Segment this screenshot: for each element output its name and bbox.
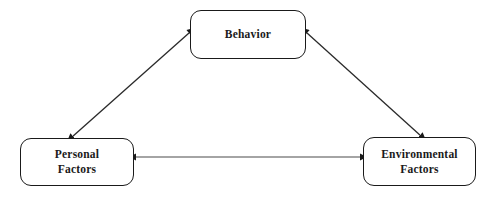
node-environmental-factors-label: Environmental Factors — [381, 147, 458, 176]
node-personal-factors: Personal Factors — [20, 138, 134, 186]
diagram-canvas: Behavior Personal Factors Environmental … — [0, 0, 492, 204]
node-personal-factors-label: Personal Factors — [55, 147, 99, 176]
connector-behavior-personal — [72, 33, 189, 137]
node-behavior-label: Behavior — [225, 27, 271, 42]
connector-behavior-environmental — [307, 33, 421, 136]
node-behavior: Behavior — [190, 10, 306, 59]
node-environmental-factors: Environmental Factors — [363, 137, 476, 186]
